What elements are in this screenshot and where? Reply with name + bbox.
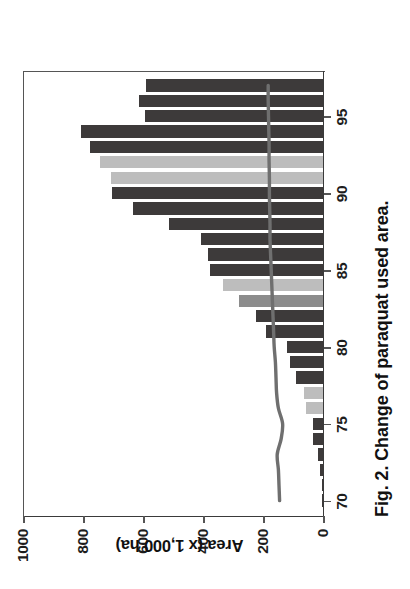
category-tick-label-85: 85	[333, 256, 351, 286]
overlay-line-series	[24, 70, 324, 516]
category-tick-90	[324, 193, 331, 194]
category-tick-label-80: 80	[333, 333, 351, 363]
value-tick-800	[83, 516, 84, 523]
category-tick-70	[324, 501, 331, 502]
value-axis-title: Area (x 1,000 ha)	[50, 536, 310, 555]
category-tick-label-95: 95	[333, 102, 351, 132]
plot-area	[24, 71, 324, 517]
figure-canvas: 02004006008001000 707580859095 Area (x 1…	[0, 0, 410, 589]
value-tick-1000	[23, 516, 24, 523]
value-tick-label-1000: 1000	[14, 529, 32, 573]
value-tick-0	[323, 516, 324, 523]
category-tick-label-90: 90	[333, 179, 351, 209]
value-tick-600	[143, 516, 144, 523]
category-tick-75	[324, 424, 331, 425]
figure-caption: Fig. 2. Change of paraquat used area.	[372, 57, 393, 517]
value-tick-400	[203, 516, 204, 523]
value-tick-label-0: 0	[314, 529, 332, 573]
value-tick-200	[263, 516, 264, 523]
rotated-figure-wrapper: 02004006008001000 707580859095 Area (x 1…	[0, 0, 410, 589]
category-tick-95	[324, 116, 331, 117]
category-tick-label-75: 75	[333, 410, 351, 440]
category-tick-85	[324, 270, 331, 271]
category-tick-80	[324, 347, 331, 348]
category-tick-label-70: 70	[333, 487, 351, 517]
